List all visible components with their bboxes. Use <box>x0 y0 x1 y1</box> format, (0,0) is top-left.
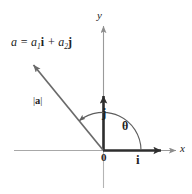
magnitude-bar-close: | <box>40 95 42 106</box>
y-axis-label: y <box>97 10 102 21</box>
x-axis-label: x <box>180 143 185 154</box>
unit-vector-j-label: j <box>102 106 106 119</box>
unit-vector-i-label: i <box>136 153 140 166</box>
angle-theta-label: θ <box>122 120 128 132</box>
vector-a-arrow <box>34 65 104 150</box>
vector-expression-label: a = a1i + a2j <box>11 36 72 51</box>
origin-label: 0 <box>101 152 107 163</box>
diagram-canvas <box>0 0 192 194</box>
component-2-unit-vector: j <box>68 35 72 49</box>
magnitude-label: |a| <box>33 96 42 107</box>
vector-diagram-figure: a = a1i + a2j |a| y x j i θ 0 <box>0 0 192 194</box>
plus-sign: + <box>44 35 58 49</box>
equals-sign: = <box>17 35 31 49</box>
